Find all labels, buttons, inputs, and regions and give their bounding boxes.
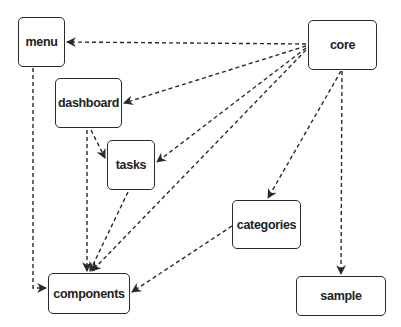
node-dashboard: dashboard	[55, 78, 122, 128]
edge-core-tasks	[157, 48, 306, 162]
edge-dashboard-tasks	[91, 130, 105, 158]
edge-core-menu	[67, 42, 306, 44]
node-core-label: core	[330, 38, 355, 52]
node-components: components	[48, 273, 130, 314]
node-dashboard-label: dashboard	[58, 96, 119, 110]
edge-menu-components	[33, 68, 46, 288]
node-tasks: tasks	[107, 140, 155, 190]
edge-core-categories	[268, 71, 341, 198]
node-sample: sample	[296, 276, 386, 316]
node-core: core	[308, 20, 377, 70]
node-menu-label: menu	[25, 35, 57, 49]
node-sample-label: sample	[320, 289, 361, 303]
node-categories: categories	[232, 200, 301, 249]
node-tasks-label: tasks	[116, 158, 146, 172]
node-components-label: components	[53, 287, 124, 301]
node-menu: menu	[18, 17, 65, 67]
edge-categories-components	[132, 226, 232, 292]
edge-tasks-components	[90, 192, 128, 271]
edge-core-dashboard	[124, 46, 306, 103]
edge-core-sample	[341, 71, 342, 274]
node-categories-label: categories	[237, 218, 297, 232]
